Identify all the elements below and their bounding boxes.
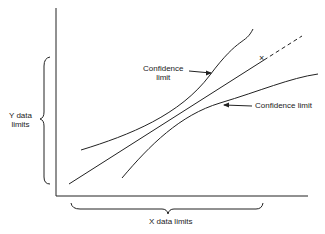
upper-confidence-line2: limit (143, 73, 183, 82)
y-limits-line2: limits (9, 120, 32, 129)
lower-arrowhead (223, 103, 229, 108)
y-limits-line1: Y data (9, 111, 32, 120)
upper-confidence-line1: Confidence (143, 64, 183, 73)
star-marker: × (259, 54, 264, 63)
x-brace (71, 203, 263, 214)
upper-confidence-label: Confidence limit (143, 64, 183, 82)
x-limits-label: X data limits (149, 217, 193, 226)
lower-confidence-curve (122, 74, 318, 178)
lower-confidence-label: Confidence limit (255, 101, 312, 110)
y-brace (40, 57, 50, 184)
confidence-limits-diagram (0, 0, 325, 234)
extrapolation-line (264, 36, 302, 60)
y-limits-label: Y data limits (9, 111, 32, 129)
upper-arrowhead (206, 71, 212, 76)
